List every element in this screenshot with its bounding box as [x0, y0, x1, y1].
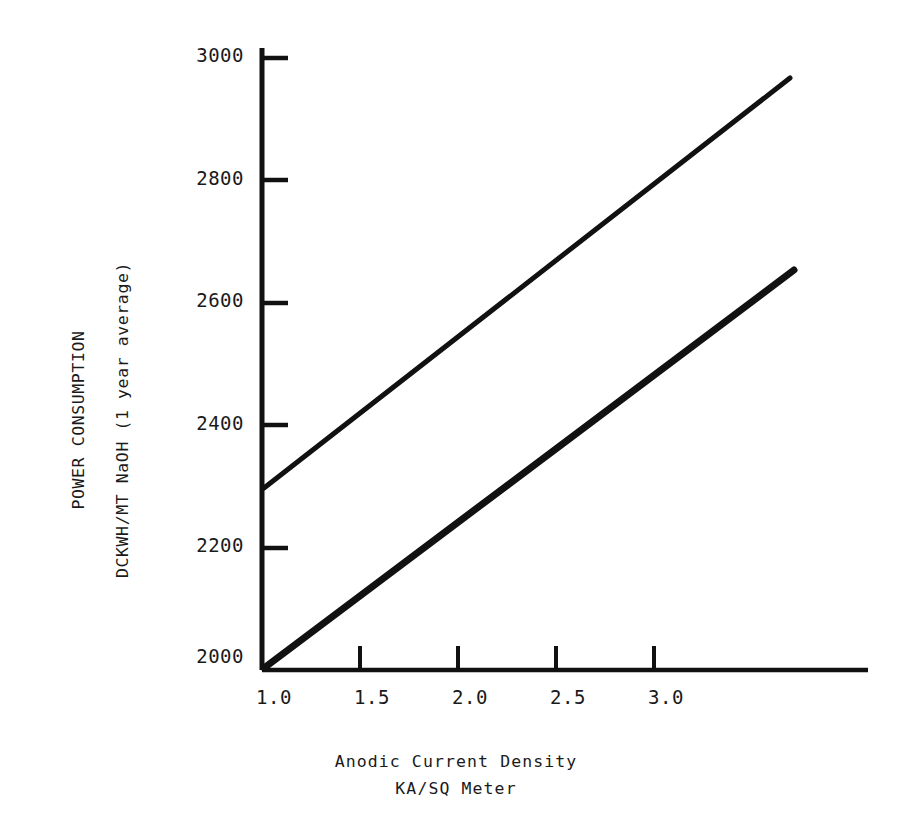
y-tick-label-3000: 3000 — [160, 44, 244, 66]
x-tick-label-1-5: 1.5 — [337, 686, 407, 708]
x-axis-label-line-2: KA/SQ Meter — [0, 775, 912, 802]
x-axis-label-group: Anodic Current Density KA/SQ Meter — [0, 748, 912, 802]
x-tick-label-1-0: 1.0 — [239, 686, 309, 708]
y-tick-label-2400: 2400 — [160, 412, 244, 434]
plot-area: 3000 2800 2600 2400 2200 2000 1.0 1.5 2.… — [0, 0, 912, 826]
series-line-upper — [264, 78, 790, 488]
y-tick-label-2000: 2000 — [160, 645, 244, 667]
figure-root: POWER CONSUMPTION DCKWH/MT NaOH (1 year … — [0, 0, 912, 826]
x-axis-label-line-1: Anodic Current Density — [0, 748, 912, 775]
y-tick-label-2800: 2800 — [160, 167, 244, 189]
x-tick-label-2-0: 2.0 — [435, 686, 505, 708]
x-tick-marks — [360, 646, 654, 670]
y-tick-label-2200: 2200 — [160, 534, 244, 556]
x-tick-label-2-5: 2.5 — [533, 686, 603, 708]
x-tick-label-3-0: 3.0 — [631, 686, 701, 708]
y-tick-label-2600: 2600 — [160, 289, 244, 311]
series-line-lower — [264, 270, 794, 668]
